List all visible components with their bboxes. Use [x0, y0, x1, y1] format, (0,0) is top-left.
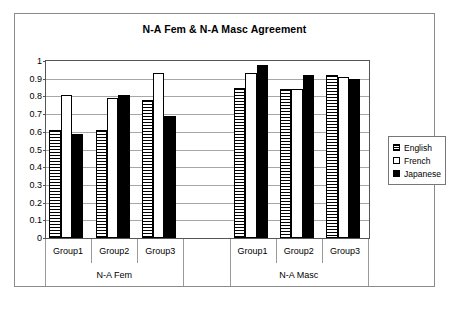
category-axis: Group1Group2Group3Group1Group2Group3 N-A… [45, 239, 370, 286]
axis-separator [276, 239, 277, 263]
bar-french-n-a-masc-group3 [338, 77, 349, 238]
y-tick-mark [43, 167, 46, 168]
y-tick-mark [43, 220, 46, 221]
axis-separator [230, 263, 231, 286]
y-tick-mark [43, 96, 46, 97]
gridline [46, 96, 369, 97]
axis-separator [368, 239, 369, 263]
panel-label-n-a-fem: N-A Fem [45, 263, 183, 286]
bar-japanese-n-a-masc-group2 [303, 75, 314, 238]
gridline [46, 132, 369, 133]
y-axis-tick-label: 0.1 [29, 215, 42, 225]
bar-english-n-a-masc-group2 [280, 89, 291, 238]
y-axis-tick-label: 0.8 [29, 91, 42, 101]
legend-item-japanese: Japanese [393, 167, 441, 180]
bar-french-n-a-fem-group2 [107, 98, 118, 238]
legend-label: French [404, 156, 430, 166]
legend-label: English [404, 143, 432, 153]
gridline [46, 203, 369, 204]
category-label-n-a-masc-group2: Group2 [276, 239, 322, 263]
y-axis-tick-label: 1 [37, 56, 42, 66]
category-label-n-a-fem-group2: Group2 [91, 239, 137, 263]
category-label-n-a-masc-group3: Group3 [322, 239, 368, 263]
gridline [46, 150, 369, 151]
panel-label-row: N-A FemN-A Masc [45, 263, 370, 286]
gridline [46, 79, 369, 80]
gridline [46, 114, 369, 115]
axis-separator [91, 239, 92, 263]
y-axis-tick-label: 0.2 [29, 198, 42, 208]
bar-english-n-a-fem-group3 [142, 100, 153, 238]
bar-french-n-a-fem-group3 [153, 73, 164, 238]
gridline [46, 167, 369, 168]
axis-separator [183, 239, 184, 263]
bar-japanese-n-a-fem-group1 [72, 134, 83, 238]
legend-label: Japanese [404, 169, 441, 179]
gridline [46, 185, 369, 186]
bar-english-n-a-fem-group1 [49, 130, 60, 238]
panel-label-n-a-masc: N-A Masc [230, 263, 368, 286]
bar-english-n-a-fem-group2 [96, 130, 107, 238]
bar-english-n-a-masc-group3 [326, 75, 337, 238]
axis-separator [230, 239, 231, 263]
legend-swatch-french-icon [393, 157, 400, 164]
bar-french-n-a-masc-group2 [291, 89, 302, 238]
y-tick-mark [43, 203, 46, 204]
y-axis-tick-label: 0.7 [29, 109, 42, 119]
axis-separator [45, 239, 46, 263]
bar-japanese-n-a-fem-group3 [164, 116, 175, 238]
axis-separator [322, 239, 323, 263]
category-label-n-a-fem-group1: Group1 [45, 239, 91, 263]
bar-japanese-n-a-masc-group3 [349, 79, 360, 238]
chart-frame: N-A Fem & N-A Masc Agreement 10.90.80.70… [14, 13, 435, 287]
category-label-n-a-masc-group1: Group1 [230, 239, 276, 263]
y-tick-mark [43, 79, 46, 80]
chart-title: N-A Fem & N-A Masc Agreement [15, 23, 434, 35]
category-label-n-a-fem-group3: Group3 [137, 239, 183, 263]
y-tick-mark [43, 150, 46, 151]
y-tick-mark [43, 61, 46, 62]
bar-french-n-a-fem-group1 [61, 95, 72, 238]
axis-separator [183, 263, 184, 286]
legend-swatch-japanese-icon [393, 170, 400, 177]
axis-separator [137, 239, 138, 263]
y-axis-tick-label: 0.9 [29, 74, 42, 84]
bar-english-n-a-masc-group1 [234, 88, 245, 238]
legend-swatch-english-icon [393, 144, 400, 151]
y-axis-tick-label: 0.5 [29, 145, 42, 155]
y-axis-tick-label: 0 [37, 233, 42, 243]
bar-japanese-n-a-masc-group1 [257, 65, 268, 238]
axis-separator [368, 263, 369, 286]
y-axis-tick-label: 0.4 [29, 162, 42, 172]
legend-item-english: English [393, 141, 441, 154]
gridline [46, 220, 369, 221]
y-tick-mark [43, 132, 46, 133]
y-axis-tick-label: 0.3 [29, 180, 42, 190]
bar-japanese-n-a-fem-group2 [118, 95, 129, 238]
plot-area: 10.90.80.70.60.50.40.30.20.10 [45, 60, 370, 239]
bar-french-n-a-masc-group1 [245, 73, 256, 238]
y-tick-mark [43, 114, 46, 115]
legend-item-french: French [393, 154, 441, 167]
y-axis-tick-label: 0.6 [29, 127, 42, 137]
chart-legend: EnglishFrenchJapanese [388, 136, 446, 185]
axis-separator [45, 263, 46, 286]
y-tick-mark [43, 185, 46, 186]
group-label-row: Group1Group2Group3Group1Group2Group3 [45, 239, 370, 263]
